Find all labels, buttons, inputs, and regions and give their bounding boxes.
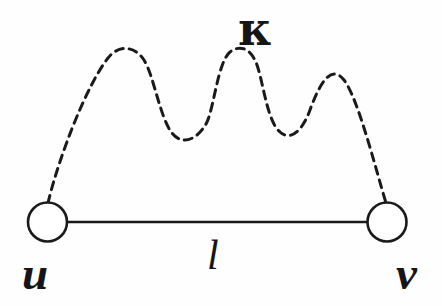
graph-figure: u v l κ bbox=[0, 0, 442, 306]
edge-label-length: l bbox=[207, 234, 219, 276]
edge-label-kappa: κ bbox=[238, 6, 272, 52]
figure-canvas bbox=[0, 0, 442, 306]
circle-node-icon bbox=[368, 203, 407, 242]
circle-node-icon bbox=[28, 203, 67, 242]
node-label-u: u bbox=[22, 250, 48, 297]
node-label-v: v bbox=[396, 250, 417, 297]
dashed-wave-icon bbox=[48, 48, 386, 203]
